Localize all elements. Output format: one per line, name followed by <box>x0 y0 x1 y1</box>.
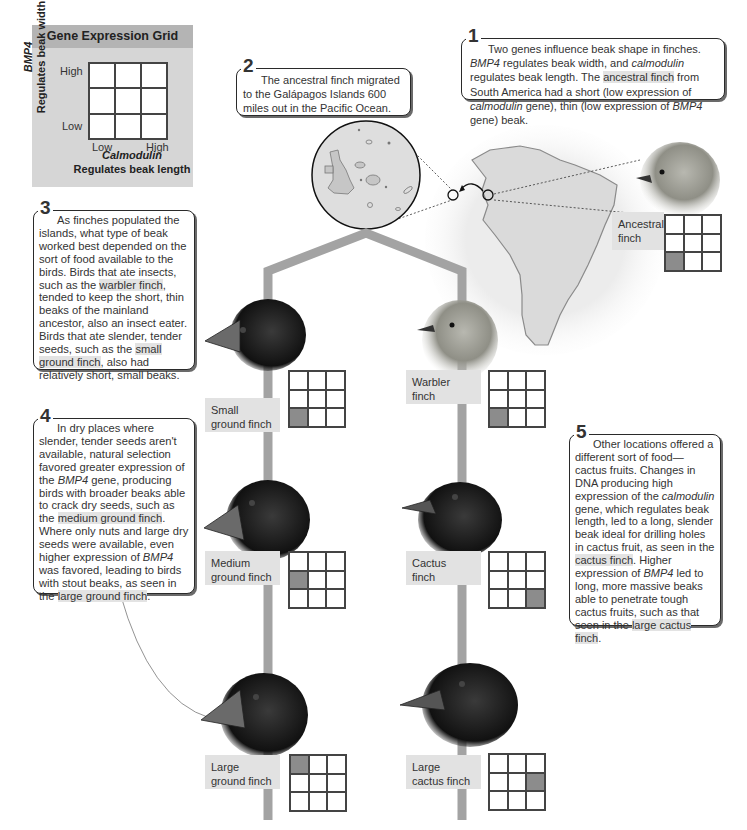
galapagos-islands-inset <box>312 121 420 229</box>
large-cactus-finch-illustration <box>400 663 518 747</box>
highlight-cactus-finch: cactus finch <box>575 554 633 566</box>
highlight-large-ground-finch: large ground finch <box>58 590 148 602</box>
callout-3-text: As finches populated the islands, what t… <box>34 211 194 382</box>
expression-grid-ancestral-finch <box>664 214 722 272</box>
expression-grid-small-ground-finch <box>288 370 346 428</box>
callout-number: 3 <box>38 198 53 218</box>
species-label-warbler-finch: Warblerfinch <box>406 370 481 404</box>
callout-1-text: Two genes influence beak shape in finche… <box>462 39 724 127</box>
callout-5-text: Other locations offered a different sort… <box>570 435 720 645</box>
callout-4: 4 In dry places where slender, tender se… <box>33 418 195 594</box>
warbler-finch-illustration <box>417 300 498 380</box>
expression-grid-warbler-finch <box>488 370 546 428</box>
species-label-large-ground-finch: Largeground finch <box>205 755 280 789</box>
callout-number: 4 <box>38 406 53 426</box>
callout-1: 1 Two genes influence beak shape in finc… <box>461 38 725 100</box>
callout-5: 5 Other locations offered a different so… <box>569 434 721 626</box>
expression-grid-large-ground-finch <box>289 754 347 812</box>
callout-number: 2 <box>241 56 256 76</box>
large-ground-finch-illustration <box>201 673 308 757</box>
callout-4-text: In dry places where slender, tender seed… <box>34 419 194 603</box>
callout-3: 3 As finches populated the islands, what… <box>33 210 195 370</box>
highlight-medium-ground-finch: medium ground finch <box>58 512 162 524</box>
callout-2-text: The ancestral finch migrated to the Galá… <box>243 74 400 114</box>
medium-ground-finch-illustration <box>204 480 310 560</box>
small-ground-finch-illustration <box>205 299 306 371</box>
species-label-small-ground-finch: Smallground finch <box>205 398 280 432</box>
cactus-finch-illustration <box>402 482 502 558</box>
expression-grid-medium-ground-finch <box>288 551 346 609</box>
expression-grid-cactus-finch <box>488 551 546 609</box>
callout-2: 2 The ancestral finch migrated to the Ga… <box>236 68 411 116</box>
species-label-ancestral-finch: Ancestralfinch <box>612 212 664 250</box>
highlight-ancestral-finch: ancestral finch <box>603 71 674 83</box>
expression-grid-large-cactus-finch <box>488 753 546 811</box>
species-label-medium-ground-finch: Mediumground finch <box>205 551 280 585</box>
species-label-large-cactus-finch: Largecactus finch <box>406 755 481 789</box>
callout-number: 1 <box>466 26 481 46</box>
callout-number: 5 <box>574 422 589 442</box>
species-label-cactus-finch: Cactusfinch <box>406 551 481 585</box>
leader-line <box>120 593 210 718</box>
highlight-warbler-finch: warbler finch <box>99 279 162 291</box>
